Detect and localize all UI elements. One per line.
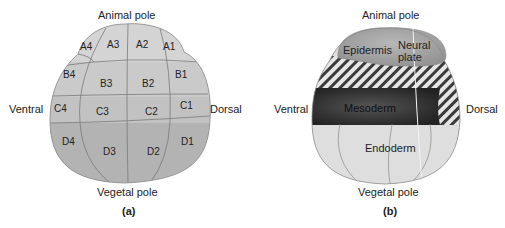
caption-b: (b) xyxy=(383,206,397,217)
ventral-label-b: Ventral xyxy=(274,104,308,115)
dorsal-label-b: Dorsal xyxy=(466,104,498,115)
mesoderm-label: Mesoderm xyxy=(344,103,396,114)
epidermis-label: Epidermis xyxy=(343,45,392,56)
vegetal-pole-label-b: Vegetal pole xyxy=(358,187,419,198)
neural-plate-label-line2: plate xyxy=(398,52,422,63)
embryo-b-diagram xyxy=(0,0,505,228)
neural-plate-label-line1: Neural xyxy=(398,40,430,51)
animal-pole-label-b: Animal pole xyxy=(362,10,419,21)
endoderm-label: Endoderm xyxy=(365,143,416,154)
